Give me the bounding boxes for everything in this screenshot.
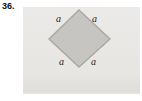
rectangle-background: a a a a [23,7,140,94]
textbook-exercise-figure: 36. a a a a [0,0,142,101]
problem-number: 36. [2,1,15,11]
side-label-bottom-left: a [59,57,64,67]
side-label-bottom-right: a [91,57,96,67]
side-label-top-right: a [92,14,97,24]
side-label-top-left: a [56,14,61,24]
diamond-figure [23,7,140,94]
